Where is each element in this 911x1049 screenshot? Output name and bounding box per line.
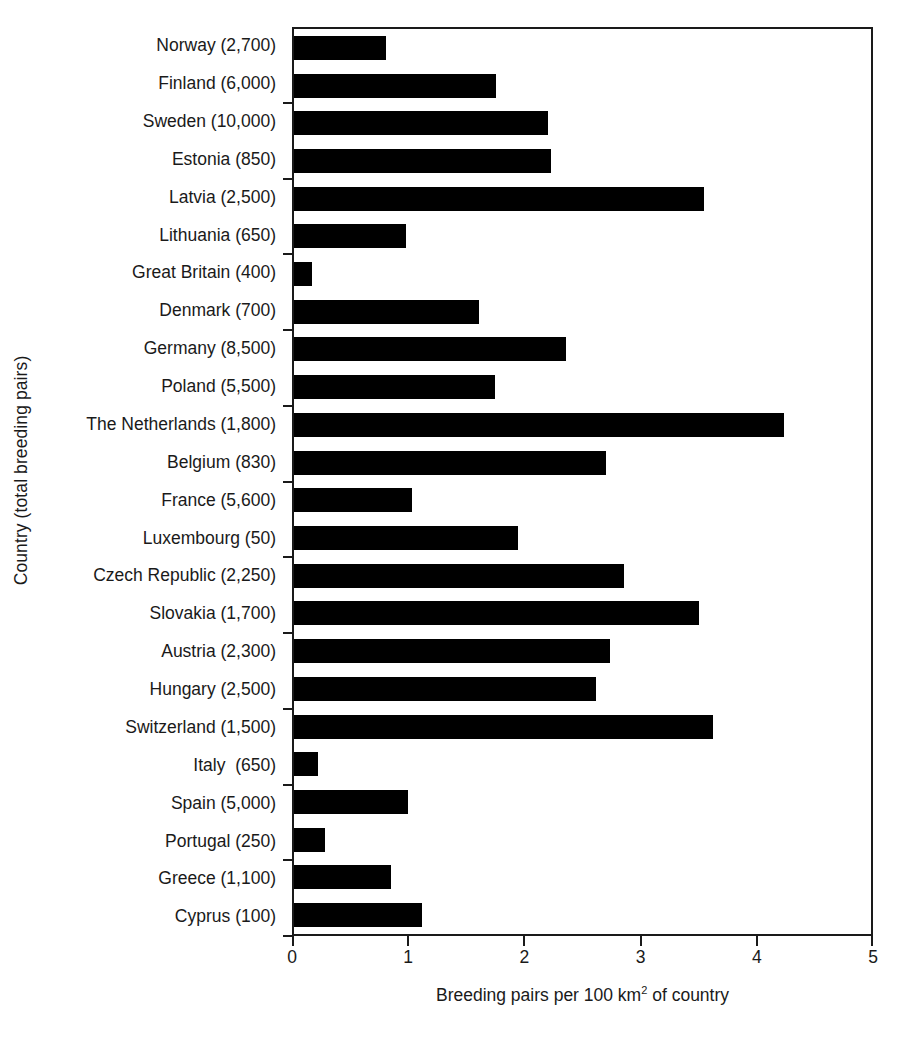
x-axis-tick-labels: 012345 [292,949,873,975]
x-axis-tick [871,936,873,946]
category-label: Italy (650) [46,747,284,785]
bar-row [294,444,871,482]
plot-area [292,27,873,936]
category-label: France (5,600) [46,482,284,520]
bar-row [294,67,871,105]
bars-container [294,29,871,934]
bar-row [294,595,871,633]
bar [294,488,412,512]
bar [294,337,566,361]
x-axis-ticks [292,936,873,946]
y-axis-tick [283,632,292,634]
category-label: Lithuania (650) [46,216,284,254]
y-axis-tick [283,784,292,786]
bar-row [294,745,871,783]
y-axis-tick [283,481,292,483]
bar-row [294,255,871,293]
x-axis-tick-label: 2 [520,949,530,967]
category-label: Estonia (850) [46,141,284,179]
category-label: Slovakia (1,700) [46,595,284,633]
bar-row [294,632,871,670]
x-axis-title-text: Breeding pairs per 100 km2 of country [292,987,873,1005]
category-axis-labels: Norway (2,700)Finland (6,000)Sweden (10,… [46,27,284,936]
y-axis-tick [283,253,292,255]
bar [294,790,408,814]
bar [294,601,699,625]
bar [294,677,596,701]
category-label: Greece (1,100) [46,860,284,898]
bar [294,828,325,852]
x-axis-tick [640,936,642,946]
y-axis-tick [283,329,292,331]
bar-row [294,896,871,934]
category-label: Luxembourg (50) [46,519,284,557]
x-axis-tick-label: 1 [403,949,413,967]
bar [294,526,518,550]
bar-row [294,519,871,557]
bar-row [294,783,871,821]
category-label: Belgium (830) [46,444,284,482]
x-axis-tick-label: 5 [868,949,878,967]
y-axis-tick [283,178,292,180]
bar-row [294,180,871,218]
x-axis-tick-label: 0 [287,949,297,967]
category-label: Latvia (2,500) [46,179,284,217]
bar-row [294,406,871,444]
y-axis-tick [283,859,292,861]
y-axis-title-text: Country (total breeding pairs) [12,355,33,585]
bar-row [294,104,871,142]
y-axis-tick [283,102,292,104]
category-label: Cyprus (100) [46,898,284,936]
category-label: Poland (5,500) [46,368,284,406]
category-label: Spain (5,000) [46,785,284,823]
y-axis-ticks [283,27,292,936]
x-axis-tick [523,936,525,946]
category-label: Switzerland (1,500) [46,709,284,747]
bar [294,187,704,211]
bar-row [294,858,871,896]
x-axis-tick [756,936,758,946]
category-label: Hungary (2,500) [46,671,284,709]
category-label: Finland (6,000) [46,65,284,103]
bar [294,865,391,889]
bar [294,300,479,324]
bar-row [294,29,871,67]
category-label: Denmark (700) [46,292,284,330]
bar [294,224,406,248]
bar [294,715,713,739]
bar-row [294,293,871,331]
bar [294,639,610,663]
bar [294,564,624,588]
category-label: Norway (2,700) [46,27,284,65]
bar [294,149,551,173]
category-label: Austria (2,300) [46,633,284,671]
bar-row [294,331,871,369]
bar-row [294,218,871,256]
bar [294,451,606,475]
x-axis-title-superscript: 2 [641,984,647,996]
bar-row [294,368,871,406]
bar [294,903,422,927]
bar-row [294,557,871,595]
bar-row [294,142,871,180]
y-axis-title: Country (total breeding pairs) [0,0,44,940]
category-label: Great Britain (400) [46,254,284,292]
x-axis-tick [407,936,409,946]
bar [294,413,784,437]
y-axis-tick [283,405,292,407]
bar-chart-figure: Country (total breeding pairs) Norway (2… [0,0,911,1049]
y-axis-tick [283,935,292,937]
bar [294,375,495,399]
bar [294,111,548,135]
category-label: Portugal (250) [46,822,284,860]
category-label: Germany (8,500) [46,330,284,368]
bar-row [294,670,871,708]
category-label: Sweden (10,000) [46,103,284,141]
x-axis-tick [292,936,294,946]
bar [294,752,318,776]
x-axis-tick-label: 4 [752,949,762,967]
y-axis-tick [283,556,292,558]
y-axis-tick [283,708,292,710]
bar-row [294,821,871,859]
bar [294,36,386,60]
